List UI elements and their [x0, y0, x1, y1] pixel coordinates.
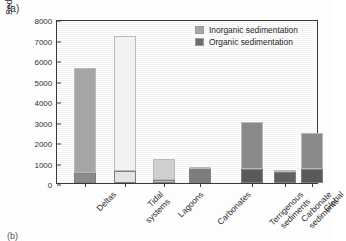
chart-legend: Inorganic sedimentationOrganic sedimenta…: [195, 25, 298, 49]
bar-global: [301, 133, 323, 183]
y-tick-label: 3000: [35, 119, 57, 128]
y-tick-label: 8000: [35, 17, 57, 26]
legend-item: Inorganic sedimentation: [195, 25, 298, 35]
y-tick-label: 4000: [35, 99, 57, 108]
y-tick-label: 1000: [35, 160, 57, 169]
x-axis-label: Tidalsystems: [137, 190, 172, 225]
bar-segment-inorganic: [301, 133, 323, 169]
bar-deltas: [74, 68, 96, 183]
x-axis-label-line: Deltas: [94, 189, 118, 213]
bar-segment-organic: [274, 172, 296, 183]
x-tick-mark: [200, 183, 201, 187]
x-axis-label: Deltas: [94, 190, 118, 214]
bar-segment-organic: [301, 169, 323, 183]
bar-segment-inorganic: [241, 122, 263, 169]
bar-segment-organic: [74, 173, 96, 183]
legend-item: Organic sedimentation: [195, 37, 298, 47]
y-tick-mark: [57, 62, 61, 63]
x-axis-label-line: Carbonates: [215, 189, 253, 227]
y-tick-mark: [57, 82, 61, 83]
y-tick-mark: [57, 144, 61, 145]
x-axis-label-line: Lagoons: [176, 189, 206, 219]
x-axis-label: Carbonates: [215, 190, 252, 227]
x-tick-mark: [252, 183, 253, 187]
y-tick-mark: [57, 103, 61, 104]
y-tick-label: 7000: [35, 37, 57, 46]
y-axis-title: Sedimentation (g m-2 yr-1): [2, 0, 16, 48]
bar-segment-inorganic: [74, 68, 96, 173]
bar-segment-inorganic: [153, 159, 175, 180]
y-tick-mark: [57, 164, 61, 165]
legend-label: Inorganic sedimentation: [209, 25, 298, 35]
bar-carbonate-sediments: [274, 171, 296, 183]
x-tick-mark: [312, 183, 313, 187]
bar-segment-organic: [189, 169, 211, 183]
bar-lagoons: [153, 159, 175, 183]
bar-segment-organic: [114, 171, 136, 183]
y-tick-label: 6000: [35, 58, 57, 67]
bar-terrigenous-sediments: [241, 122, 263, 184]
x-tick-mark: [125, 183, 126, 187]
x-axis-label: Lagoons: [177, 190, 207, 220]
y-tick-label: 0: [48, 181, 57, 190]
legend-swatch: [195, 26, 204, 34]
next-panel-label: (b): [7, 231, 18, 241]
x-tick-mark: [85, 183, 86, 187]
y-tick-mark: [57, 21, 61, 22]
y-tick-label: 2000: [35, 140, 57, 149]
y-tick-mark: [57, 41, 61, 42]
y-tick-mark: [57, 185, 61, 186]
y-tick-label: 5000: [35, 78, 57, 87]
bar-carbonates: [189, 167, 211, 183]
legend-swatch: [195, 38, 204, 46]
x-tick-mark: [285, 183, 286, 187]
legend-label: Organic sedimentation: [209, 37, 293, 47]
bar-segment-organic: [241, 169, 263, 183]
y-tick-mark: [57, 123, 61, 124]
x-tick-mark: [164, 183, 165, 187]
bar-segment-inorganic: [114, 36, 136, 170]
bar-tidal-systems: [114, 36, 136, 183]
